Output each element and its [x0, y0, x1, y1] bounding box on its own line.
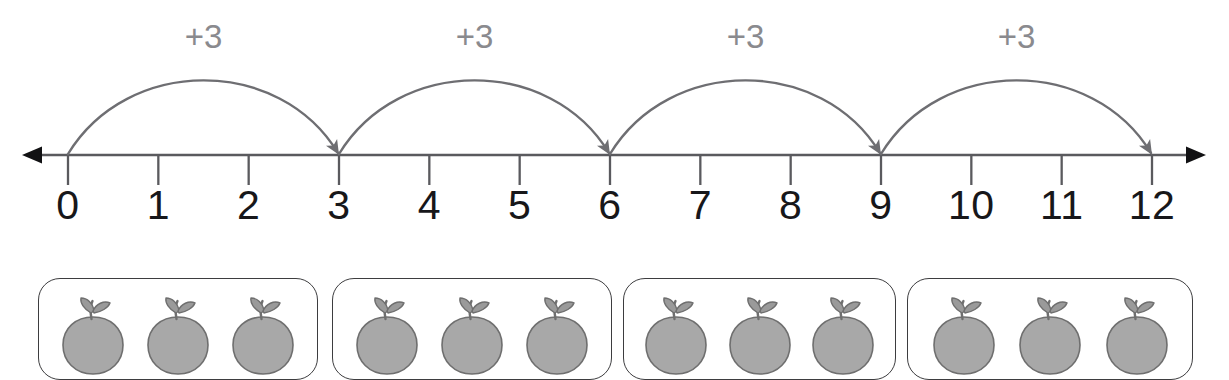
apple-body	[813, 317, 873, 374]
apple-icon	[56, 295, 130, 379]
number-line-ticks	[68, 155, 1152, 185]
tick-label: 2	[209, 185, 289, 226]
apple-leaf-right	[760, 302, 777, 313]
tick-label: 12	[1112, 185, 1192, 226]
jump-label: +3	[159, 20, 249, 53]
apple-icon	[639, 295, 713, 379]
right-arrowhead-icon	[1186, 147, 1206, 164]
apple-leaf-right	[843, 302, 860, 313]
apple-icon	[927, 295, 1001, 379]
jump-arc	[339, 80, 609, 154]
apple-leaf-right	[93, 302, 110, 313]
tick-label: 7	[660, 185, 740, 226]
apple-group-box	[907, 278, 1193, 380]
apple-leaf-right	[472, 302, 489, 313]
apple-leaf-right	[676, 302, 693, 313]
apple-icon	[520, 295, 594, 379]
tick-label: 5	[480, 185, 560, 226]
skip-counting-diagram: 0123456789101112 +3+3+3+3	[0, 0, 1229, 380]
apple-icon	[435, 295, 509, 379]
apple-icon	[723, 295, 797, 379]
apple-body	[233, 317, 293, 374]
apple-body	[934, 317, 994, 374]
apple-row	[908, 279, 1192, 379]
apple-row	[624, 279, 895, 379]
apple-body	[1107, 317, 1167, 374]
tick-label: 0	[28, 185, 108, 226]
tick-label: 4	[389, 185, 469, 226]
jump-arc	[68, 80, 338, 154]
apple-leaf-right	[263, 302, 280, 313]
jump-label: +3	[972, 20, 1062, 53]
apple-group-box	[623, 278, 896, 380]
apple-body	[148, 317, 208, 374]
apple-leaf-right	[1137, 302, 1154, 313]
apple-icon	[226, 295, 300, 379]
jump-arcs	[68, 80, 1151, 154]
apple-icon	[1013, 295, 1087, 379]
apple-leaf-right	[557, 302, 574, 313]
jump-label: +3	[701, 20, 791, 53]
tick-label: 10	[931, 185, 1011, 226]
apple-leaf-right	[387, 302, 404, 313]
apple-icon	[1100, 295, 1174, 379]
apple-group-box	[38, 278, 318, 380]
apple-row	[333, 279, 611, 379]
apple-icon	[141, 295, 215, 379]
apple-body	[357, 317, 417, 374]
tick-label: 11	[1022, 185, 1102, 226]
apple-body	[1020, 317, 1080, 374]
tick-label: 8	[751, 185, 831, 226]
apple-icon	[806, 295, 880, 379]
left-arrowhead-icon	[22, 147, 42, 164]
apple-body	[730, 317, 790, 374]
apple-icon	[350, 295, 424, 379]
jump-arc	[881, 80, 1151, 154]
tick-label: 3	[299, 185, 379, 226]
apple-body	[63, 317, 123, 374]
apple-group-row	[0, 278, 1229, 380]
apple-row	[39, 279, 317, 379]
apple-body	[442, 317, 502, 374]
jump-arc	[610, 80, 880, 154]
apple-leaf-right	[178, 302, 195, 313]
apple-leaf-right	[964, 302, 981, 313]
apple-group-box	[332, 278, 612, 380]
apple-body	[527, 317, 587, 374]
tick-label: 6	[570, 185, 650, 226]
apple-leaf-right	[1050, 302, 1067, 313]
tick-label: 9	[841, 185, 921, 226]
tick-label: 1	[118, 185, 198, 226]
jump-label: +3	[430, 20, 520, 53]
apple-body	[646, 317, 706, 374]
